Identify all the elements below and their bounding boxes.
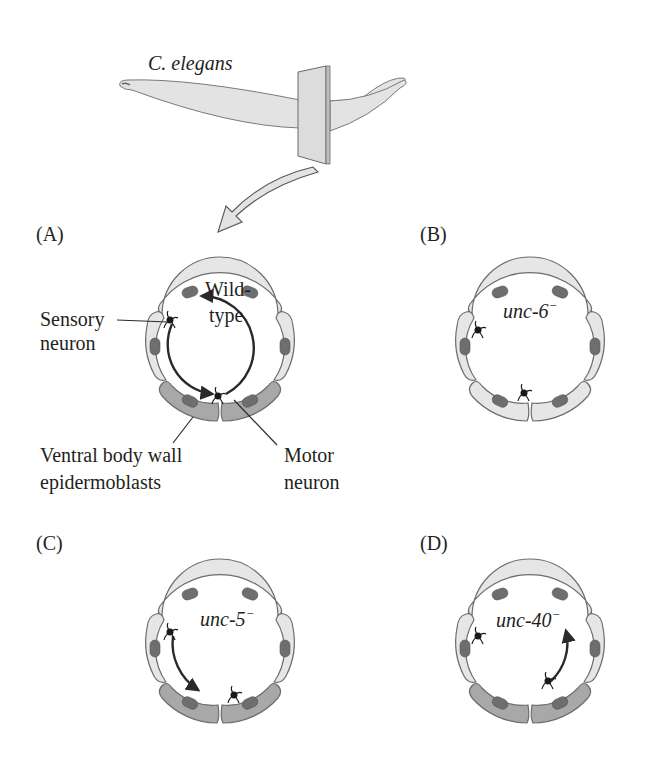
panel-d: (D) unc-40− [420, 532, 604, 723]
epidermoblast-leader-line [173, 417, 193, 443]
sensory-neuron-label-2: neuron [40, 332, 96, 354]
panel-c-label: (C) [36, 532, 63, 555]
section-arrow-icon [218, 167, 318, 232]
ring-b [456, 257, 605, 421]
ring-d [456, 559, 605, 723]
motor-neuron-icon [212, 387, 226, 404]
panel-a: (A) Wild- type Sensory neuron Ventral bo… [36, 223, 340, 494]
motor-neuron-label-2: neuron [284, 471, 340, 493]
svg-text:unc-40−: unc-40− [496, 607, 560, 631]
panel-b: (B) unc-6− [420, 223, 604, 421]
svg-text:unc-6−: unc-6− [503, 298, 557, 322]
organism-title: C. elegans [148, 52, 233, 75]
panel-c: (C) unc-5− [36, 532, 294, 723]
worm-illustration [120, 78, 407, 131]
condition-label-line1: Wild- [205, 278, 251, 300]
svg-text:unc-5−: unc-5− [200, 606, 254, 630]
epidermoblast-label: Ventral body wall [40, 444, 183, 467]
diagram-canvas: C. elegans (A) Wild- type Sensory neuron… [0, 0, 651, 777]
motor-neuron-label: Motor [284, 444, 334, 466]
section-plane [298, 66, 330, 164]
panel-a-label: (A) [36, 223, 64, 246]
panel-d-label: (D) [420, 532, 448, 555]
condition-label-line2: type [209, 304, 244, 327]
panel-b-label: (B) [420, 223, 447, 246]
ring-c [146, 559, 295, 723]
epidermoblast-label-2: epidermoblasts [40, 471, 161, 494]
sensory-neuron-label: Sensory [40, 308, 104, 331]
